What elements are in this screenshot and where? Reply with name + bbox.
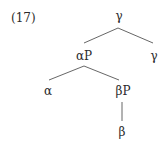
tree-edges [0,0,167,150]
edge-ap-to-alpha [49,66,84,80]
node-alpha-p: αP [76,50,92,62]
node-alpha: α [44,85,52,97]
node-root-gamma: γ [115,10,122,22]
edge-ap-to-bp [84,66,119,80]
edge-root-to-ap [84,28,118,43]
node-beta: β [119,126,126,138]
edge-root-to-gamma [118,28,153,43]
node-beta-p: βP [115,85,130,97]
node-gamma: γ [150,50,157,62]
